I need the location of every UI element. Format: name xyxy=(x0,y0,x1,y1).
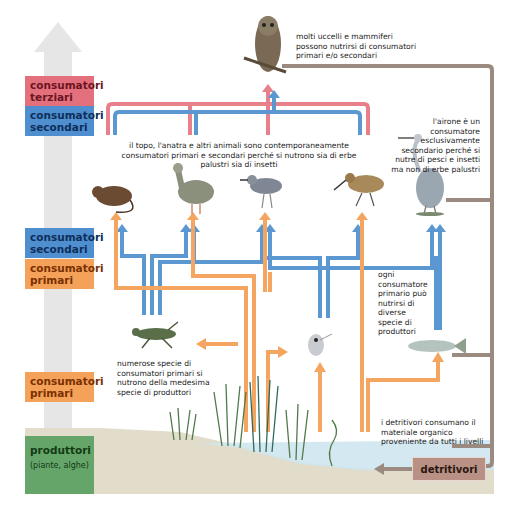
level-label: consumatori primari xyxy=(30,375,104,399)
note-heron: l'airone è un consumatore esclusivamente… xyxy=(385,117,480,174)
level-primari-low: consumatori primari xyxy=(25,372,94,402)
level-label: consumatori primari xyxy=(30,262,104,286)
fish-icon xyxy=(408,338,466,354)
daphnia-icon xyxy=(308,334,332,356)
secondary-flows-top xyxy=(115,90,360,135)
note-numerose: numerose specie di consumatori primari s… xyxy=(117,359,213,397)
note-owl: molti uccelli e mammiferi possono nutrir… xyxy=(296,32,426,61)
goose-icon xyxy=(173,163,214,214)
level-terziari: consumatori terziari xyxy=(25,76,94,106)
note-ogni: ogni consumatore primario può nutrirsi d… xyxy=(378,270,430,337)
owl-icon xyxy=(244,16,286,72)
note-mixed: il topo, l'anatra e altri animali sono c… xyxy=(108,141,370,170)
note-detritivori: i detritivori consumano il materiale org… xyxy=(381,418,493,447)
level-label: produttori xyxy=(30,444,89,456)
level-label: consumatori secondari xyxy=(30,109,104,133)
level-secondari-mid: consumatori secondari xyxy=(25,228,94,258)
godwit-icon xyxy=(334,173,384,206)
level-label: consumatori secondari xyxy=(30,231,104,255)
grasshopper-icon xyxy=(132,322,178,348)
level-sublabel: (piante, alghe) xyxy=(30,460,89,472)
level-secondari-top: consumatori secondari xyxy=(25,106,94,136)
level-produttori: produttori (piante, alghe) xyxy=(25,436,94,494)
tertiary-flows xyxy=(108,84,368,135)
level-label: consumatori terziari xyxy=(30,79,104,103)
sandpiper-icon xyxy=(240,175,282,208)
level-detritivori: detritivori xyxy=(412,457,486,481)
level-primari-mid: consumatori primari xyxy=(25,259,94,289)
detritivori-label: detritivori xyxy=(420,464,477,475)
mouse-icon xyxy=(92,186,133,212)
secondary-arrowheads xyxy=(116,224,446,232)
